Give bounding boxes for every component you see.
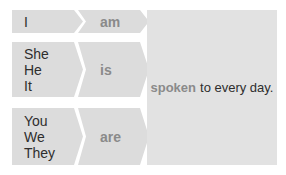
verb-am: am bbox=[100, 14, 120, 30]
verb-is: is bbox=[100, 62, 112, 78]
pronoun-i: I bbox=[24, 14, 83, 30]
pronoun-you: You bbox=[24, 113, 83, 129]
pronoun-cell-1: I bbox=[12, 10, 83, 33]
pronoun-cell-2: She He It bbox=[12, 42, 83, 97]
pronoun-she: She bbox=[24, 46, 83, 62]
verb-cell-is: is bbox=[78, 42, 149, 97]
verb-cell-are: are bbox=[78, 108, 149, 165]
sentence-completion: spoken to every day. bbox=[147, 10, 277, 165]
sentence-rest: to every day. bbox=[200, 80, 273, 95]
verb-cell-am: am bbox=[78, 10, 149, 33]
pronoun-they: They bbox=[24, 145, 83, 161]
participle-spoken: spoken bbox=[151, 80, 197, 95]
pronoun-we: We bbox=[24, 129, 83, 145]
pronoun-he: He bbox=[24, 62, 83, 78]
pronoun-cell-3: You We They bbox=[12, 108, 83, 165]
verb-are: are bbox=[100, 129, 121, 145]
pronoun-it: It bbox=[24, 78, 83, 94]
